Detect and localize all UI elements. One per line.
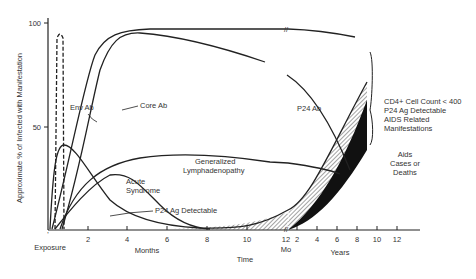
months-label: Months xyxy=(135,246,160,255)
svg-text:8: 8 xyxy=(355,235,359,244)
p24-ab-label: P24 Ab xyxy=(297,104,321,113)
exposure-label: Exposure xyxy=(34,243,66,252)
mo-label: Mo xyxy=(281,245,291,254)
svg-text:12: 12 xyxy=(393,235,401,244)
cd4-label-2: P24 Ag Detectable xyxy=(384,106,446,115)
svg-text:4: 4 xyxy=(315,235,319,244)
cd4-label-3: AIDS Related xyxy=(384,115,429,124)
env-ab-label: Env Ab xyxy=(70,103,94,112)
svg-text:6: 6 xyxy=(335,235,339,244)
svg-text:10: 10 xyxy=(243,235,251,244)
svg-text:2: 2 xyxy=(86,235,90,244)
svg-text:': ' xyxy=(47,230,49,239)
svg-text:4: 4 xyxy=(125,235,129,244)
y-tick-50: 50 xyxy=(33,123,41,132)
svg-text:10: 10 xyxy=(373,235,381,244)
svg-text:2: 2 xyxy=(295,235,299,244)
cd4-label-1: CD4+ Cell Count < 400 xyxy=(384,97,462,106)
x-ticks-years: 2 4 6 8 10 12 xyxy=(295,226,401,244)
chart: 100 50 Approximate % of Infected with Ma… xyxy=(0,0,476,279)
y-tick-100: 100 xyxy=(28,19,41,28)
aids-label-3: Deaths xyxy=(393,168,417,177)
lymphadenopathy-label-2: Lymphadenopathy xyxy=(183,166,245,175)
svg-text:8: 8 xyxy=(205,235,209,244)
core-ab-label: Core Ab xyxy=(140,101,167,110)
p24-ag-label: P24 Ag Detectable xyxy=(155,206,217,215)
acute-syndrome-label-2: Syndrome xyxy=(126,186,160,195)
aids-label-2: Cases or xyxy=(390,159,421,168)
time-label: Time xyxy=(237,255,253,264)
bracket-icon xyxy=(370,52,373,145)
years-label: Years xyxy=(331,248,350,257)
aids-label-1: Aids xyxy=(398,150,413,159)
svg-text:12: 12 xyxy=(282,235,290,244)
lymphadenopathy-label-1: Generalized xyxy=(195,157,235,166)
acute-syndrome-label-1: Acute xyxy=(126,177,145,186)
y-axis-label: Approximate % of Infected with Manifesta… xyxy=(15,53,24,203)
svg-text:6: 6 xyxy=(165,235,169,244)
cd4-label-4: Manifestations xyxy=(384,124,433,133)
